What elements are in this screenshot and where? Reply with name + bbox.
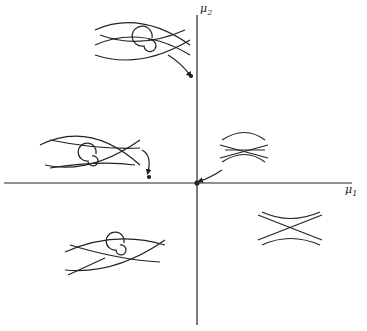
portrait-right-upper bbox=[200, 133, 268, 182]
origin-point bbox=[195, 181, 199, 185]
portrait-bottom-left bbox=[65, 232, 165, 275]
portrait-top-left bbox=[95, 23, 193, 78]
bifurcation-diagram bbox=[0, 0, 367, 331]
portrait-bottom-right bbox=[258, 212, 322, 245]
mu1-label: μ1 bbox=[345, 183, 357, 198]
mu2-label: μ2 bbox=[200, 2, 212, 17]
portrait-left bbox=[40, 136, 151, 178]
